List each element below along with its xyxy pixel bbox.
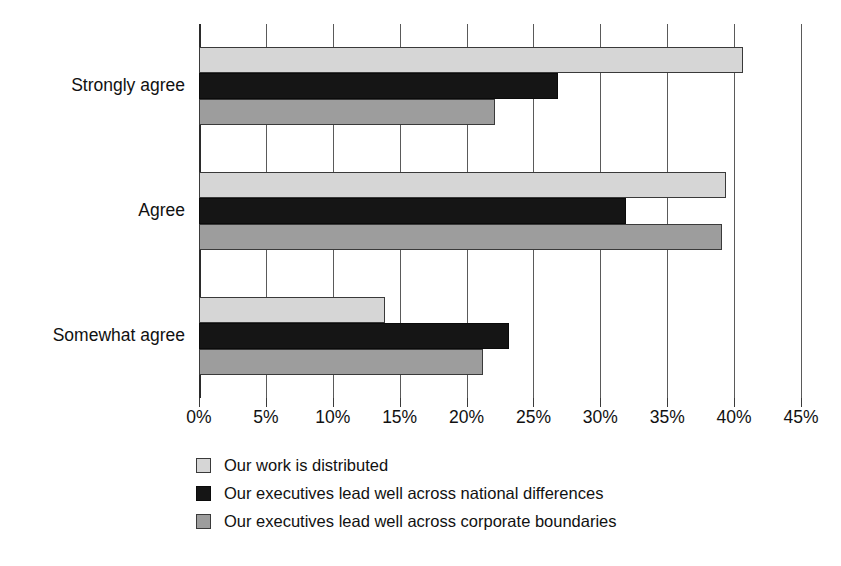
x-tick-label-25%: 25%: [516, 409, 551, 427]
x-tick-mark: [467, 398, 468, 407]
x-tick-label-10%: 10%: [315, 409, 350, 427]
x-tick-mark: [333, 398, 334, 407]
legend-item[interactable]: Our work is distributed: [196, 452, 617, 478]
x-tick-label-15%: 15%: [382, 409, 417, 427]
category-label-strongly-agree: Strongly agree: [0, 77, 185, 95]
legend-item[interactable]: Our executives lead well across corporat…: [196, 508, 617, 534]
category-label-somewhat-agree: Somewhat agree: [0, 327, 185, 345]
x-tick-mark: [533, 398, 534, 407]
chart-legend: Our work is distributedOur executives le…: [196, 452, 617, 536]
legend-swatch-icon: [196, 514, 211, 529]
x-tick-mark: [400, 398, 401, 407]
category-label-agree: Agree: [0, 202, 185, 220]
legend-label: Our executives lead well across national…: [224, 485, 603, 502]
x-tick-label-5%: 5%: [253, 409, 278, 427]
legend-item[interactable]: Our executives lead well across national…: [196, 480, 617, 506]
x-tick-label-35%: 35%: [650, 409, 685, 427]
x-tick-mark: [266, 398, 267, 407]
x-tick-label-30%: 30%: [583, 409, 618, 427]
legend-swatch-icon: [196, 486, 211, 501]
bar-chart-figure: Strongly agreeAgreeSomewhat agree 0%5%10…: [0, 0, 841, 566]
x-axis: 0%5%10%15%20%25%30%35%40%45%: [0, 398, 841, 438]
x-tick-label-45%: 45%: [783, 409, 818, 427]
x-tick-mark: [667, 398, 668, 407]
x-tick-label-20%: 20%: [449, 409, 484, 427]
legend-label: Our work is distributed: [224, 457, 388, 474]
x-tick-mark: [734, 398, 735, 407]
legend-label: Our executives lead well across corporat…: [224, 513, 617, 530]
legend-swatch-icon: [196, 458, 211, 473]
x-tick-label-40%: 40%: [717, 409, 752, 427]
x-tick-label-0%: 0%: [186, 409, 211, 427]
x-tick-mark: [199, 398, 200, 407]
x-tick-mark: [600, 398, 601, 407]
x-tick-mark: [801, 398, 802, 407]
